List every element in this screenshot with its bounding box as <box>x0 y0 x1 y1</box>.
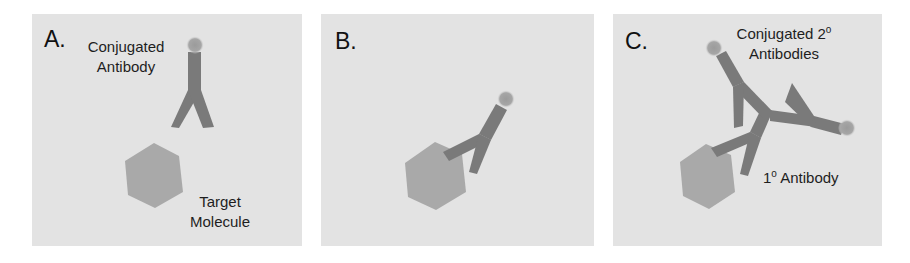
panel-b-illustration <box>321 14 594 246</box>
label-conjugated-antibody: Conjugated Antibody <box>84 37 168 77</box>
label-line: Antibodies <box>729 44 839 64</box>
conjugate-dot-icon <box>186 36 204 54</box>
degree-superscript: o <box>826 24 832 35</box>
panel-a: A. Conjugated Antibody Target Molecule <box>32 14 302 246</box>
label-line: Molecule <box>180 212 260 232</box>
panel-letter: C. <box>625 30 648 53</box>
conjugate-dot-icon <box>705 39 723 57</box>
target-molecule-icon <box>125 143 183 208</box>
label-line: Conjugated 2o <box>729 20 839 44</box>
label-primary-antibody: 1o Antibody <box>763 164 839 188</box>
target-molecule-icon <box>680 144 735 209</box>
antibody-icon <box>171 52 214 128</box>
label-conjugated-secondary-antibodies: Conjugated 2o Antibodies <box>729 20 839 64</box>
label-text: Conjugated 2 <box>737 25 826 42</box>
panel-letter: B. <box>335 30 357 53</box>
label-text: Antibody <box>777 169 839 186</box>
secondary-antibody-icon <box>770 83 845 135</box>
label-target-molecule: Target Molecule <box>180 192 260 232</box>
label-line: Conjugated <box>84 37 168 57</box>
label-line: Target <box>180 192 260 212</box>
panel-b: B. <box>321 14 594 246</box>
conjugate-dot-icon <box>838 119 856 137</box>
label-line: Antibody <box>84 57 168 77</box>
panel-letter: A. <box>44 28 66 51</box>
panel-c: C. Conjugated 2o Antibodies 1o Antibody <box>613 14 882 246</box>
conjugate-dot-icon <box>497 90 515 108</box>
